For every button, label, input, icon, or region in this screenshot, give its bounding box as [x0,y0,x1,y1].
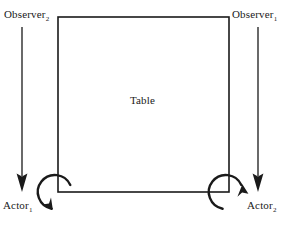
label-actor-left-base: Actor [3,199,29,211]
observer-left-arrowhead [17,174,28,193]
label-actor-left-subscript: 1 [29,206,33,214]
diagram-vector-layer [0,0,285,231]
label-actor-right-subscript: 2 [273,206,277,214]
actor-right-arc-arrowhead [237,184,248,197]
label-actor-right: Actor2 [247,200,276,211]
label-observer-left-subscript: 2 [46,15,50,23]
label-observer-right-base: Observer [232,8,274,20]
label-observer-right: Observer1 [232,9,277,20]
observer-right-arrowhead [253,174,264,193]
label-table: Table [0,95,285,106]
label-actor-left: Actor1 [3,200,32,211]
label-observer-right-subscript: 1 [274,15,278,23]
label-observer-left-base: Observer [4,8,46,20]
label-actor-right-base: Actor [247,199,273,211]
diagram-canvas: Observer2 Observer1 Actor1 Actor2 Table [0,0,285,231]
label-observer-left: Observer2 [4,9,49,20]
